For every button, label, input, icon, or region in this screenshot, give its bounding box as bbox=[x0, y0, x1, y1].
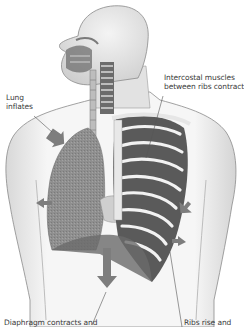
sternum bbox=[114, 120, 122, 220]
label-ribs-line-1: Ribs rise and bbox=[184, 318, 231, 327]
label-lung-line-2: inflates bbox=[6, 102, 33, 111]
label-intercostal-line-1: Intercostal muscles bbox=[164, 73, 244, 82]
label-intercostal: Intercostal muscles between ribs contrac… bbox=[164, 73, 244, 91]
label-intercostal-line-2: between ribs contract bbox=[164, 82, 244, 91]
cervical-spine bbox=[100, 62, 114, 114]
label-ribs: Ribs rise and bbox=[184, 318, 231, 327]
label-diaphragm-line-1: Diaphragm contracts and bbox=[4, 318, 97, 327]
label-lung: Lung inflates bbox=[6, 93, 33, 111]
mouth-cavity bbox=[66, 46, 92, 73]
breathing-diagram: Lung inflates Intercostal muscles betwee… bbox=[0, 0, 244, 327]
label-diaphragm: Diaphragm contracts and bbox=[4, 318, 97, 327]
anatomy-figure bbox=[0, 0, 244, 327]
label-lung-line-1: Lung bbox=[6, 93, 33, 102]
